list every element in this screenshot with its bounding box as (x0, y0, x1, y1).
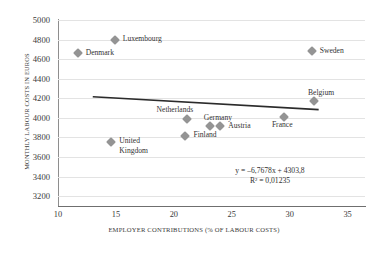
data-point-marker (110, 35, 120, 45)
x-tick-label: 35 (343, 210, 351, 219)
y-tick-label: 3200 (0, 191, 54, 201)
data-point-marker (73, 48, 83, 58)
y-tick-label: 4400 (0, 74, 54, 84)
data-point-label: United Kingdom (119, 136, 161, 155)
data-point-label: Denmark (86, 48, 114, 57)
x-tick-label: 30 (286, 210, 294, 219)
y-tick-label: 4200 (0, 93, 54, 103)
data-point-marker (307, 46, 317, 56)
y-tick-label: 5000 (0, 15, 54, 25)
y-axis-ticks: 5000480046004400420040003800360034003200 (0, 0, 54, 253)
gridline (58, 40, 365, 41)
x-axis-title: EMPLOYER CONTRIBUTIONS (% OF LABOUR COST… (0, 226, 388, 233)
x-axis-line (58, 206, 366, 207)
data-point-label: Netherlands (157, 105, 194, 114)
regression-equation: y = –6,7678x + 4303,8 (196, 166, 344, 176)
y-tick-label: 4000 (0, 113, 54, 123)
x-tick-label: 20 (170, 210, 178, 219)
data-point-marker (180, 131, 190, 141)
data-point-marker (205, 121, 215, 131)
regression-annotation: y = –6,7678x + 4303,8 R² = 0,01235 (196, 166, 344, 186)
x-tick-label: 10 (54, 210, 62, 219)
x-tick-label: 15 (112, 210, 120, 219)
gridline (58, 79, 365, 80)
gridline (58, 20, 365, 21)
data-point-label: Belgium (308, 88, 334, 97)
y-tick-label: 4800 (0, 35, 54, 45)
y-tick-label: 3600 (0, 152, 54, 162)
data-point-label: Sweden (320, 46, 344, 55)
data-point-label: Finland (193, 130, 216, 139)
data-point-marker (309, 96, 319, 106)
gridline (58, 196, 365, 197)
y-tick-label: 4600 (0, 54, 54, 64)
regression-r-squared: R² = 0,01235 (196, 176, 344, 186)
data-point-label: Austria (228, 121, 250, 130)
y-tick-label: 3400 (0, 172, 54, 182)
data-point-label: France (272, 120, 293, 129)
y-tick-label: 3800 (0, 132, 54, 142)
gridline (58, 157, 365, 158)
gridline (58, 59, 365, 60)
data-point-marker (215, 121, 225, 131)
scatter-chart: MONTHLY LABOUR COSTS IN EUROS 5000480046… (0, 0, 388, 253)
gridline (58, 98, 365, 99)
data-point-marker (182, 114, 192, 124)
x-tick-label: 25 (228, 210, 236, 219)
data-point-label: Luxembourg (123, 34, 162, 43)
